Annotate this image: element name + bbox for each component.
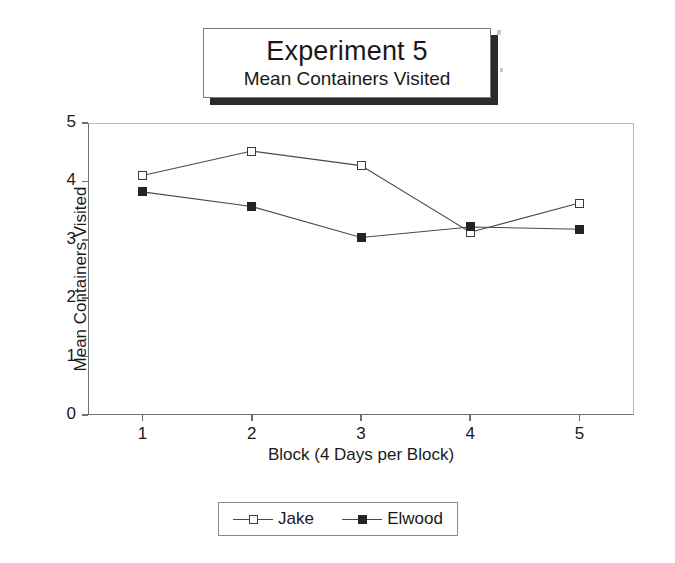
chart-plot-area: 012345 12345 Block (4 Days per Block) Me…: [0, 0, 675, 563]
filled-square-icon: [466, 222, 475, 231]
filled-square-icon: [358, 515, 367, 524]
y-axis-title: Mean Containers Visited: [71, 133, 91, 425]
filled-square-icon: [575, 225, 584, 234]
scan-artifact: [500, 68, 503, 72]
x-axis-title: Block (4 Days per Block): [88, 445, 634, 465]
open-square-icon: [138, 171, 147, 180]
open-square-icon: [357, 161, 366, 170]
legend-sample-elwood: [342, 514, 382, 525]
filled-square-icon: [247, 202, 256, 211]
scan-artifact: [497, 30, 501, 35]
legend-label-elwood: Elwood: [387, 509, 443, 529]
legend-entry-elwood: Elwood: [342, 509, 443, 529]
filled-square-icon: [138, 187, 147, 196]
open-square-icon: [247, 147, 256, 156]
series-lines: [0, 0, 675, 563]
filled-square-icon: [357, 233, 366, 242]
legend-entry-jake: Jake: [233, 509, 314, 529]
legend-label-jake: Jake: [278, 509, 314, 529]
series-line-elwood: [143, 192, 580, 238]
open-square-icon: [249, 515, 258, 524]
open-square-icon: [575, 199, 584, 208]
legend-sample-jake: [233, 514, 273, 525]
chart-legend: Jake Elwood: [218, 502, 458, 536]
